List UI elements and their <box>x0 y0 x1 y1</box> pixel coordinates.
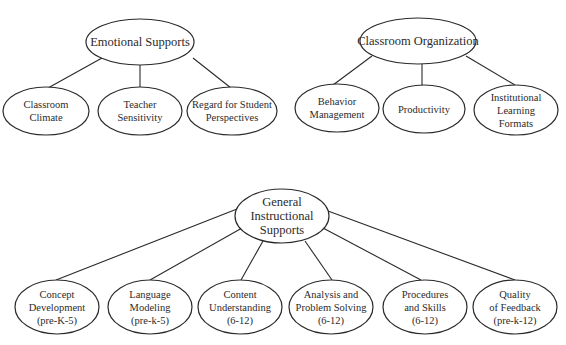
node-teacher-sensitivity[interactable]: Teacher Sensitivity <box>98 87 182 135</box>
edge-emotional-to-climate <box>48 58 102 88</box>
edge-instructional-to-procedures <box>323 228 421 280</box>
node-label-line1: Analysis and <box>304 289 359 300</box>
node-label-line2: Learning <box>497 105 536 116</box>
node-label-line2: Modeling <box>130 302 172 313</box>
node-label: Emotional Supports <box>90 35 190 49</box>
group-classroom-organization: Classroom Organization Behavior Manageme… <box>295 18 558 135</box>
node-analysis-and-problem-solving[interactable]: Analysis and Problem Solving (6-12) <box>289 280 373 334</box>
node-general-instructional-supports[interactable]: General Instructional Supports <box>235 189 329 243</box>
node-content-understanding[interactable]: Content Understanding (6-12) <box>198 280 282 334</box>
node-label-line3: (6-12) <box>412 315 439 327</box>
node-label-line2: Problem Solving <box>296 302 368 313</box>
edge-organization-to-institutional <box>466 56 515 85</box>
node-label-line2: Perspectives <box>206 112 259 123</box>
node-label-line2: Climate <box>29 112 63 123</box>
edge-organization-to-behavior <box>333 56 372 85</box>
node-label-line1: Procedures <box>402 289 449 300</box>
node-label-line2: and Skills <box>404 302 446 313</box>
node-label-line1: Quality <box>499 289 531 300</box>
node-emotional-supports[interactable]: Emotional Supports <box>86 19 194 65</box>
node-label-line3: (pre-k-12) <box>493 315 537 327</box>
node-label-line1: Institutional <box>491 92 542 103</box>
node-productivity[interactable]: Productivity <box>383 85 465 133</box>
diagram-canvas: Emotional Supports Classroom Climate Tea… <box>0 0 566 345</box>
edge-instructional-to-concept <box>56 209 237 280</box>
node-label-line1: General <box>262 195 302 209</box>
node-label-line3: (pre-K-5) <box>37 315 78 327</box>
node-classroom-organization[interactable]: Classroom Organization <box>357 18 479 64</box>
node-label-line3: Formats <box>499 118 533 129</box>
node-label-line3: (6-12) <box>318 315 345 327</box>
node-label-line1: Productivity <box>398 104 451 115</box>
node-behavior-management[interactable]: Behavior Management <box>295 84 379 132</box>
node-label-line2: Management <box>310 109 365 120</box>
node-quality-of-feedback[interactable]: Quality of Feedback (pre-k-12) <box>473 280 557 334</box>
node-label-line3: (6-12) <box>227 315 254 327</box>
node-procedures-and-skills[interactable]: Procedures and Skills (6-12) <box>383 280 467 334</box>
node-label-line2: Sensitivity <box>118 112 164 123</box>
node-regard-for-student-perspectives[interactable]: Regard for Student Perspectives <box>187 87 277 135</box>
node-institutional-learning-formats[interactable]: Institutional Learning Formats <box>474 85 558 135</box>
edge-instructional-to-language <box>150 228 242 280</box>
node-label-line2: of Feedback <box>489 302 541 313</box>
node-label: Classroom Organization <box>357 34 479 48</box>
node-concept-development[interactable]: Concept Development (pre-K-5) <box>15 280 99 334</box>
node-label-line2: Understanding <box>209 302 272 313</box>
node-label-line1: Teacher <box>123 99 157 110</box>
node-language-modeling[interactable]: Language Modeling (pre-k-5) <box>108 280 192 334</box>
node-label-line3: Supports <box>260 223 305 237</box>
node-label-line1: Language <box>129 289 171 300</box>
node-label-line2: Instructional <box>250 209 314 223</box>
node-label-line1: Regard for Student <box>192 99 272 110</box>
node-label-line1: Content <box>223 289 256 300</box>
edge-instructional-to-analysis <box>305 241 332 280</box>
node-label-line3: (pre-k-5) <box>131 315 169 327</box>
edge-emotional-to-regard <box>193 58 231 88</box>
group-emotional-supports: Emotional Supports Classroom Climate Tea… <box>3 19 277 135</box>
node-label-line1: Behavior <box>318 96 357 107</box>
node-label-line1: Classroom <box>24 99 69 110</box>
group-general-instructional-supports: General Instructional Supports Concept D… <box>15 189 557 334</box>
node-label-line1: Concept <box>40 289 75 300</box>
edge-instructional-to-content <box>241 241 263 280</box>
node-classroom-climate[interactable]: Classroom Climate <box>3 87 89 135</box>
node-label-line2: Development <box>29 302 86 313</box>
